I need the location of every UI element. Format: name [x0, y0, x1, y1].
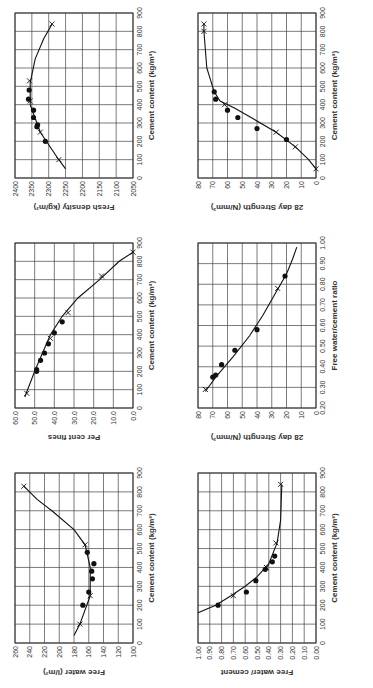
- y-tick-label: 2200: [79, 181, 86, 197]
- y-tick-label: 100: [130, 646, 137, 658]
- cross-marker: [50, 22, 55, 27]
- y-tick-label: 40: [254, 181, 261, 189]
- y-tick-label: 50: [239, 411, 246, 419]
- data-point: [38, 358, 43, 363]
- y-tick-label: 0.0: [130, 411, 137, 421]
- x-tick-label: 0: [319, 176, 326, 180]
- x-tick-label: 400: [136, 329, 143, 341]
- x-tick-label: 400: [136, 562, 143, 574]
- x-tick-label: 0.50: [319, 339, 326, 353]
- x-tick-label: 800: [319, 25, 326, 37]
- cross-marker: [27, 78, 32, 83]
- y-axis-label: 28 day Strength (N/mm²): [210, 433, 303, 442]
- x-tick-label: 0: [136, 176, 143, 180]
- x-tick-label: 500: [319, 543, 326, 555]
- y-tick-label: 240: [26, 646, 33, 658]
- x-tick-label: 300: [319, 580, 326, 592]
- y-tick-label: 0.10: [301, 646, 308, 660]
- cross-marker: [274, 130, 279, 135]
- x-tick-label: 900: [136, 467, 143, 479]
- y-tick-label: 40.0: [51, 411, 58, 425]
- y-tick-label: 30: [268, 411, 275, 419]
- x-axis-label: Cement content (kg/m³): [147, 281, 156, 371]
- y-tick-label: 1.00: [195, 646, 202, 660]
- cross-marker: [293, 144, 298, 149]
- y-axis-label: Free water (l/m³): [43, 668, 105, 677]
- y-tick-label: 10: [298, 411, 305, 419]
- fitted-curve: [25, 252, 133, 397]
- x-tick-label: 1.00: [319, 236, 326, 250]
- x-axis-label: Cement content (kg/m³): [147, 513, 156, 603]
- y-tick-label: 70: [209, 411, 216, 419]
- x-tick-label: 0.80: [319, 277, 326, 291]
- x-tick-label: 0: [136, 406, 143, 410]
- data-point: [80, 603, 85, 608]
- data-point: [254, 126, 259, 131]
- x-tick-label: 600: [136, 292, 143, 304]
- x-tick-label: 500: [319, 80, 326, 92]
- data-point: [52, 330, 57, 335]
- y-tick-label: 50: [239, 181, 246, 189]
- x-tick-label: 300: [136, 347, 143, 359]
- y-tick-label: 0: [313, 181, 320, 185]
- cross-marker: [66, 310, 71, 315]
- x-tick-label: 200: [319, 135, 326, 147]
- y-tick-label: 260: [12, 646, 19, 658]
- x-tick-label: 800: [319, 486, 326, 498]
- y-tick-label: 0.90: [206, 646, 213, 660]
- data-point: [235, 115, 240, 120]
- data-point: [284, 137, 289, 142]
- cross-marker: [38, 130, 43, 135]
- data-point: [85, 550, 90, 555]
- x-tick-label: 0.60: [319, 319, 326, 333]
- data-point: [213, 97, 218, 102]
- x-tick-label: 100: [319, 618, 326, 630]
- y-axis-label: Free water/ cement: [220, 668, 293, 677]
- y-tick-label: 0.20: [289, 646, 296, 660]
- y-tick-label: 0.70: [230, 646, 237, 660]
- data-point: [31, 108, 36, 113]
- y-tick-label: 70: [209, 181, 216, 189]
- panel-strength-vs-wc: 0.200.300.400.500.600.700.800.901.000102…: [195, 236, 340, 442]
- x-tick-label: 0.90: [319, 257, 326, 271]
- data-point: [219, 362, 224, 367]
- x-tick-label: 100: [136, 618, 143, 630]
- y-tick-label: 120: [115, 646, 122, 658]
- x-tick-label: 600: [319, 524, 326, 536]
- data-point: [270, 559, 275, 564]
- x-tick-label: 900: [319, 467, 326, 479]
- data-point: [91, 561, 96, 566]
- y-tick-label: 50.0: [31, 411, 38, 425]
- data-point: [244, 589, 249, 594]
- x-tick-label: 100: [136, 384, 143, 396]
- data-point: [27, 87, 32, 92]
- y-tick-label: 80: [195, 181, 202, 189]
- panel-per-cent-fines: 01002003004005006007008009000.010.020.03…: [12, 237, 157, 442]
- plot-frame: [15, 13, 133, 178]
- y-tick-label: 200: [56, 646, 63, 658]
- x-tick-label: 300: [136, 117, 143, 129]
- x-tick-label: 400: [319, 99, 326, 111]
- x-tick-label: 200: [136, 135, 143, 147]
- y-tick-label: 30.0: [71, 411, 78, 425]
- fitted-curve: [205, 247, 296, 391]
- x-axis-label: Cement content (kg/m³): [330, 51, 339, 141]
- y-tick-label: 0.00: [313, 646, 320, 660]
- x-tick-label: 200: [319, 599, 326, 611]
- y-tick-label: 0.40: [265, 646, 272, 660]
- y-tick-label: 0.60: [242, 646, 249, 660]
- y-tick-label: 2150: [96, 181, 103, 197]
- panel-strength-vs-cement: 0100200300400500600700800900010203040506…: [195, 7, 340, 212]
- y-tick-label: 2100: [113, 181, 120, 197]
- y-tick-label: 0.50: [254, 646, 261, 660]
- x-tick-label: 700: [136, 505, 143, 517]
- y-tick-label: 2250: [62, 181, 69, 197]
- fitted-curve: [24, 486, 90, 635]
- cross-marker: [21, 484, 26, 489]
- data-point: [232, 348, 237, 353]
- data-point: [35, 122, 40, 127]
- y-tick-label: 220: [41, 646, 48, 658]
- y-axis-label: Per cent fines: [47, 433, 100, 442]
- data-point: [215, 603, 220, 608]
- data-point: [90, 576, 95, 581]
